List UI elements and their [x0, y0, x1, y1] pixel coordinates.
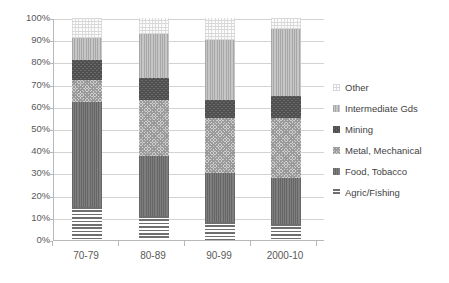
legend-item-metal-mechanical[interactable]: Metal, Mechanical	[333, 140, 449, 161]
plot-area	[53, 19, 324, 241]
bar-segment-agric-fishing[interactable]	[205, 222, 235, 240]
y-axis-tick-label: 70%	[4, 80, 50, 90]
legend-item-label: Intermediate Gds	[345, 103, 418, 114]
bar-segment-mining[interactable]	[271, 96, 301, 118]
y-axis-tick-label: 80%	[4, 57, 50, 67]
legend-item-food-tobacco[interactable]: Food, Tobacco	[333, 161, 449, 182]
y-axis-tick-label: 40%	[4, 146, 50, 156]
legend-swatch-icon	[333, 84, 340, 91]
legend-item-agric-fishing[interactable]: Agric/Fishing	[333, 182, 449, 203]
x-axis-tick-label: 80-89	[123, 250, 183, 261]
bar-80-89[interactable]	[139, 18, 169, 240]
x-axis-tick-mark	[250, 241, 251, 246]
bar-segment-mining[interactable]	[139, 78, 169, 100]
legend-item-label: Mining	[345, 124, 373, 135]
legend-swatch-icon	[333, 126, 340, 133]
legend-item-intermediate-gds[interactable]: Intermediate Gds	[333, 98, 449, 119]
bar-segment-food-tobacco[interactable]	[271, 178, 301, 225]
bar-segment-other[interactable]	[72, 18, 102, 38]
y-axis-tick-label: 90%	[4, 35, 50, 45]
legend-swatch-icon	[333, 189, 340, 196]
bar-segment-intermediate-gds[interactable]	[72, 38, 102, 60]
legend-swatch-icon	[333, 168, 340, 175]
bar-segment-food-tobacco[interactable]	[72, 102, 102, 206]
bar-segment-intermediate-gds[interactable]	[139, 34, 169, 78]
bar-90-99[interactable]	[205, 18, 235, 240]
legend-swatch-icon	[333, 105, 340, 112]
bar-segment-metal-mechanical[interactable]	[271, 118, 301, 178]
bar-segment-other[interactable]	[139, 18, 169, 34]
y-axis-tick-label: 50%	[4, 124, 50, 134]
bar-segment-metal-mechanical[interactable]	[72, 80, 102, 102]
bar-segment-agric-fishing[interactable]	[271, 224, 301, 240]
bar-segment-mining[interactable]	[205, 100, 235, 118]
bar-2000-10[interactable]	[271, 18, 301, 240]
legend-item-label: Agric/Fishing	[345, 187, 400, 198]
legend-item-label: Other	[345, 82, 369, 93]
bar-70-79[interactable]	[72, 18, 102, 240]
x-axis-tick-mark	[52, 241, 53, 246]
legend-swatch-icon	[333, 147, 340, 154]
bar-segment-other[interactable]	[205, 18, 235, 40]
legend-item-mining[interactable]: Mining	[333, 119, 449, 140]
legend-item-other[interactable]: Other	[333, 77, 449, 98]
y-axis-tick-label: 0%	[4, 235, 50, 245]
bar-segment-metal-mechanical[interactable]	[205, 118, 235, 174]
x-axis-tick-mark	[118, 241, 119, 246]
y-axis-tick-label: 10%	[4, 213, 50, 223]
y-axis-tick-label: 100%	[4, 13, 50, 23]
bar-segment-intermediate-gds[interactable]	[271, 29, 301, 96]
bar-segment-other[interactable]	[271, 18, 301, 29]
bar-segment-food-tobacco[interactable]	[205, 173, 235, 222]
bar-segment-intermediate-gds[interactable]	[205, 40, 235, 100]
legend-item-label: Metal, Mechanical	[345, 145, 422, 156]
x-axis-tick-mark	[316, 241, 317, 246]
legend-item-label: Food, Tobacco	[345, 166, 407, 177]
bar-segment-agric-fishing[interactable]	[72, 207, 102, 240]
x-axis-tick-label: 2000-10	[255, 250, 315, 261]
stacked-bar-chart: 0%10%20%30%40%50%60%70%80%90%100% 70-798…	[0, 0, 449, 283]
x-axis-tick-label: 70-79	[56, 250, 116, 261]
y-axis-tick-label: 30%	[4, 168, 50, 178]
bar-segment-mining[interactable]	[72, 60, 102, 80]
bar-segment-metal-mechanical[interactable]	[139, 100, 169, 156]
legend: OtherIntermediate GdsMiningMetal, Mechan…	[333, 77, 449, 203]
x-axis-tick-label: 90-99	[189, 250, 249, 261]
x-axis-tick-mark	[184, 241, 185, 246]
bar-segment-agric-fishing[interactable]	[139, 216, 169, 240]
y-axis-tick-label: 20%	[4, 191, 50, 201]
y-axis-tick-label: 60%	[4, 102, 50, 112]
bar-segment-food-tobacco[interactable]	[139, 156, 169, 216]
